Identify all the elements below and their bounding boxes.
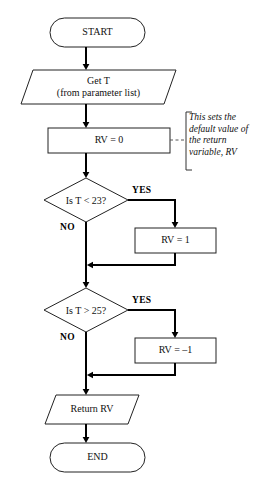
annotation-line-1: This sets the	[189, 112, 273, 124]
flowchart-graphics	[0, 0, 278, 494]
decision2-shape	[44, 288, 128, 332]
start-terminator-shape	[50, 18, 145, 47]
branch-label-no-2: NO	[60, 332, 75, 342]
annotation-text: This sets the default value of the retur…	[189, 112, 273, 158]
branch-label-yes-1: YES	[132, 185, 151, 195]
branch-label-no-1: NO	[60, 222, 75, 232]
assign2-process-shape	[135, 338, 216, 363]
connector-assign2-merge	[90, 363, 175, 375]
connector-assign1-merge	[90, 253, 175, 265]
annotation-line-4: variable, RV	[189, 147, 273, 159]
annotation-line-3: the return	[189, 135, 273, 147]
decision1-shape	[44, 178, 128, 222]
init-process-shape	[48, 128, 170, 153]
connector-decision1-yes-to-assign1	[128, 200, 175, 225]
output-parallelogram-shape	[45, 395, 139, 424]
input-parallelogram-shape	[21, 70, 176, 104]
assign1-process-shape	[135, 228, 216, 253]
branch-label-yes-2: YES	[132, 295, 151, 305]
end-terminator-shape	[50, 443, 145, 472]
connector-decision2-yes-to-assign2	[128, 310, 175, 335]
annotation-line-2: default value of	[189, 124, 273, 136]
flowchart-canvas: START Get T (from parameter list) RV = 0…	[0, 0, 278, 494]
